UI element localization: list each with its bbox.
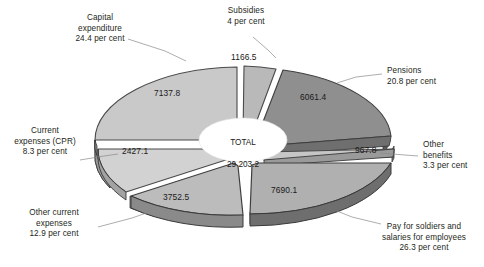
value-current-expenses-cpr: 2427.1	[122, 146, 148, 156]
value-other-benefits: 967.8	[355, 145, 376, 155]
label-subsidies: Subsidies 4 per cent	[196, 6, 296, 27]
value-other-current-expenses: 3752.5	[163, 192, 189, 202]
label-other-current-expenses: Other current expenses 12.9 per cent	[12, 208, 96, 240]
pie-chart: Capital expenditure 24.4 per cent Subsid…	[0, 0, 484, 267]
label-pay-soldiers-salaries: Pay for soldiers and salaries for employ…	[364, 222, 484, 254]
value-pay-soldiers-salaries: 7690.1	[271, 185, 297, 195]
label-current-expenses-cpr: Current expenses (CPR) 8.3 per cent	[6, 126, 84, 158]
label-pensions: Pensions 20.8 per cent	[387, 66, 482, 87]
total-label: TOTAL 29 203.2	[199, 126, 287, 181]
total-caption: TOTAL	[199, 137, 287, 148]
label-capital-expenditure: Capital expenditure 24.4 per cent	[48, 13, 152, 45]
label-other-benefits: Other benefits 3.3 per cent	[423, 140, 483, 172]
total-value: 29 203.2	[199, 159, 287, 170]
value-subsidies: 1166.5	[231, 52, 257, 62]
leader-pensions	[337, 74, 382, 83]
value-pensions: 6061.4	[300, 92, 326, 102]
value-capital-expenditure: 7137.8	[154, 88, 180, 98]
